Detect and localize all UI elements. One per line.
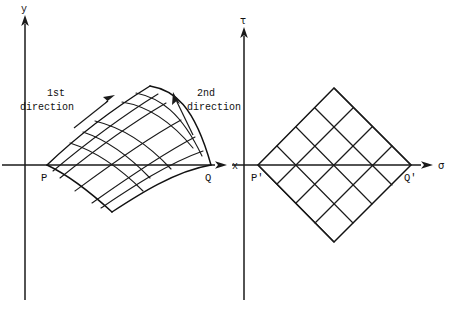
point-label-P: P — [41, 172, 47, 184]
y-axis — [21, 15, 29, 300]
sigma-axis-arrowhead — [421, 161, 433, 169]
first-direction-arrowhead — [103, 95, 115, 104]
tau-axis — [240, 27, 248, 300]
figure-canvas: y x P — [0, 0, 463, 318]
second-direction-line2: direction — [187, 102, 241, 113]
first-direction-line1: 1st — [47, 88, 65, 99]
charline-b3 — [122, 102, 193, 148]
x-axis-label: x — [232, 161, 238, 172]
charline-a4 — [112, 165, 211, 212]
second-direction-arrowhead — [172, 92, 180, 105]
first-direction-line2: direction — [20, 102, 74, 113]
right-panel: τ σ P' Q' — [232, 15, 445, 300]
charline-a3b — [101, 151, 203, 208]
sigma-axis-label: σ — [438, 160, 445, 171]
diamond-line-p3 — [315, 108, 392, 185]
x-axis-arrowhead — [215, 161, 227, 169]
second-direction-line1: 2nd — [197, 88, 215, 99]
point-label-P-prime: P' — [251, 172, 264, 184]
diagram-svg: y x P — [0, 0, 463, 318]
second-direction-annotation: 2nd direction — [172, 88, 241, 135]
left-panel: y x P — [2, 4, 241, 300]
tau-axis-label: τ — [240, 15, 246, 26]
point-label-Q: Q — [205, 172, 211, 184]
sigma-axis — [232, 161, 433, 169]
point-label-Q-prime: Q' — [404, 172, 417, 184]
charline-b0 — [47, 165, 112, 212]
y-axis-label: y — [21, 4, 27, 15]
first-direction-arrow-shaft — [74, 101, 108, 128]
charline-a1 — [60, 103, 166, 178]
